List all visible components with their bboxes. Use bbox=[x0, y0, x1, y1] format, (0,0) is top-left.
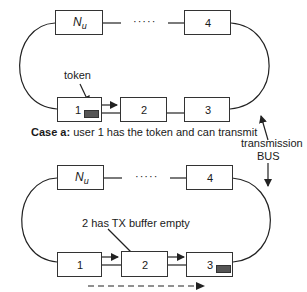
node-label: 3 bbox=[205, 105, 211, 116]
node-label: 2 bbox=[141, 105, 147, 116]
bus-label-line2: BUS bbox=[257, 151, 280, 162]
case-b-node-2: 2 bbox=[121, 251, 168, 277]
case-b-annotation: 2 has TX buffer empty bbox=[82, 218, 190, 229]
node-label: 4 bbox=[205, 18, 211, 29]
token-label: token bbox=[64, 70, 91, 81]
case-b-node-3: 3 bbox=[186, 252, 233, 277]
case-a-caption: Case a: user 1 has the token and can tra… bbox=[31, 127, 257, 138]
case-b-node-1: 1 bbox=[57, 252, 102, 277]
case-a-node-nu: Nu bbox=[55, 10, 103, 35]
case-a-ellipsis: ····· bbox=[133, 16, 156, 27]
bus-label-line1: transmission bbox=[241, 138, 303, 149]
case-a-node-1: 1 bbox=[57, 97, 102, 122]
node-label: Nu bbox=[73, 16, 87, 31]
case-b-ellipsis: ····· bbox=[135, 171, 158, 182]
token-block bbox=[84, 110, 99, 118]
case-a-node-4: 4 bbox=[184, 10, 231, 35]
case-a-node-3: 3 bbox=[184, 97, 230, 122]
case-a-node-2: 2 bbox=[120, 97, 167, 122]
node-label: 1 bbox=[77, 260, 83, 271]
token-block bbox=[216, 265, 231, 273]
case-b-node-nu: Nu bbox=[57, 165, 104, 190]
node-label: 1 bbox=[75, 105, 81, 116]
node-label: 3 bbox=[207, 260, 213, 271]
node-label: Nu bbox=[75, 171, 89, 186]
node-label: 4 bbox=[207, 173, 213, 184]
node-label: 2 bbox=[142, 260, 148, 271]
case-b-node-4: 4 bbox=[186, 165, 233, 190]
